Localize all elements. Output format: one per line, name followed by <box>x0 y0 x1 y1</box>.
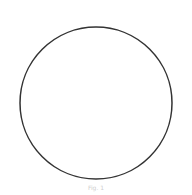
circle-shape <box>20 27 172 179</box>
circle-diagram <box>0 0 192 195</box>
figure-caption: Fig. 1 <box>0 184 192 191</box>
